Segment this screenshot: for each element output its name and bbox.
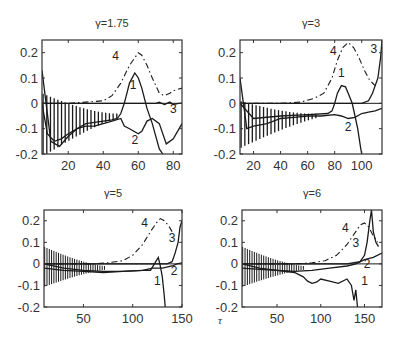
subplot-title: γ=5: [104, 187, 122, 199]
y-tick-label: 0: [229, 96, 236, 111]
subplot-3: γ=51234-0.2-0.100.10.250100150: [18, 187, 193, 326]
curve-label-1: 1: [361, 274, 368, 288]
x-tick-label: 20: [61, 158, 75, 173]
subplot-2: γ=31234-0.2-0.100.10.220406080100: [214, 17, 382, 173]
subplot-1: γ=1.751234-0.2-0.100.10.220406080: [16, 17, 182, 173]
x-tick-label: 20: [246, 158, 260, 173]
x-tick-label: 50: [76, 311, 90, 326]
curve-label-4: 4: [112, 49, 119, 63]
x-tick-label: 40: [96, 158, 110, 173]
x-tick-label: 60: [300, 158, 314, 173]
y-tick-label: 0.1: [22, 235, 40, 250]
curve-label-2: 2: [345, 120, 352, 134]
y-tick-label: 0.1: [20, 71, 38, 86]
y-tick-label: 0.1: [220, 235, 238, 250]
y-tick-label: 0.2: [218, 45, 236, 60]
curve-label-4: 4: [330, 44, 337, 58]
curve-2: [42, 70, 182, 146]
curve-3: [240, 40, 382, 103]
x-tick-label: 100: [310, 311, 332, 326]
subplot-title: γ=3: [302, 17, 320, 29]
y-tick-label: 0: [31, 96, 38, 111]
subplot-title: γ=6: [303, 187, 321, 199]
curve-label-3: 3: [170, 102, 177, 116]
y-tick-label: 0.2: [20, 45, 38, 60]
y-tick-label: -0.2: [214, 147, 236, 162]
x-tick-label: 150: [171, 311, 193, 326]
x-tick-label: 100: [122, 311, 144, 326]
curve-1: [44, 257, 165, 307]
y-tick-label: -0.2: [18, 300, 40, 315]
y-tick-label: -0.2: [16, 147, 38, 162]
y-tick-label: 0.2: [220, 213, 238, 228]
curve-label-3: 3: [169, 231, 176, 245]
y-tick-label: 0: [231, 256, 238, 271]
y-tick-label: -0.1: [16, 121, 38, 136]
curve-3: [44, 221, 182, 264]
curve-label-1: 1: [154, 274, 161, 288]
y-tick-label: 0.1: [218, 71, 236, 86]
axes-frame: [44, 210, 182, 307]
curve-label-2: 2: [131, 133, 138, 147]
y-tick-label: 0: [33, 256, 40, 271]
y-tick-label: -0.2: [216, 300, 238, 315]
curve-label-1: 1: [338, 66, 345, 80]
curve-3: [42, 102, 182, 105]
x-tick-label: 100: [351, 158, 373, 173]
subplot-4: γ=61234-0.2-0.100.10.250100150: [216, 187, 382, 326]
y-tick-label: -0.1: [214, 121, 236, 136]
curve-label-4: 4: [342, 221, 349, 235]
axes-frame: [240, 40, 382, 154]
x-tick-label: 60: [131, 158, 145, 173]
x-axis-label: τ: [218, 314, 223, 326]
curve-label-2: 2: [171, 264, 178, 278]
oscillation-band: [45, 247, 105, 287]
oscillation-band: [241, 101, 316, 148]
x-tick-label: 150: [354, 311, 376, 326]
curve-4: [240, 43, 375, 104]
x-tick-label: 50: [270, 311, 284, 326]
x-tick-label: 80: [166, 158, 180, 173]
x-tick-label: 80: [327, 158, 341, 173]
curve-label-2: 2: [364, 257, 371, 271]
subplot-title: γ=1.75: [95, 17, 128, 29]
curve-label-3: 3: [371, 42, 378, 56]
curve-label-4: 4: [141, 216, 148, 230]
figure: γ=1.751234-0.2-0.100.10.220406080γ=31234…: [0, 0, 401, 347]
x-tick-label: 40: [273, 158, 287, 173]
y-tick-label: -0.1: [18, 278, 40, 293]
curve-label-1: 1: [130, 78, 137, 92]
curve-label-3: 3: [352, 236, 359, 250]
y-tick-label: 0.2: [22, 213, 40, 228]
y-tick-label: -0.1: [216, 278, 238, 293]
